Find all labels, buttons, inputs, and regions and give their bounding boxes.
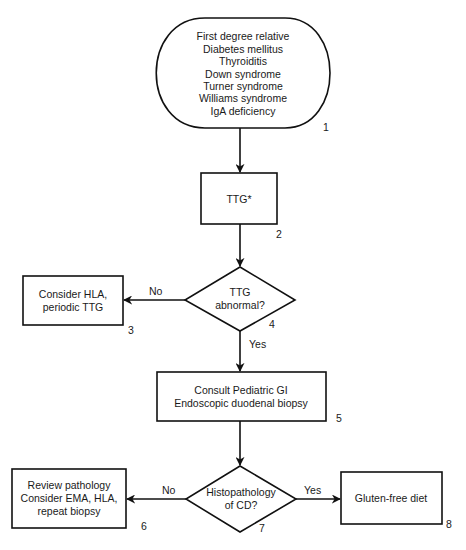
node-8-number: 8 — [446, 518, 452, 530]
node-1-line-6: Williams syndrome — [199, 92, 287, 104]
node-2-label: TTG* — [226, 193, 251, 205]
node-2-number: 2 — [276, 228, 282, 240]
node-6-line-2: Consider EMA, HLA, — [21, 492, 118, 504]
node-4-number: 4 — [269, 318, 275, 330]
node-6-line-1: Review pathology — [28, 479, 112, 491]
node-1-line-4: Down syndrome — [205, 68, 281, 80]
edge-label-no-1: No — [149, 285, 163, 297]
edge-label-yes-1: Yes — [249, 338, 266, 350]
node-consult-gi: Consult Pediatric GI Endoscopic duodenal… — [157, 372, 342, 424]
node-1-line-2: Diabetes mellitus — [203, 43, 283, 55]
node-6-number: 6 — [141, 520, 147, 532]
edge-label-no-2: No — [162, 484, 176, 496]
node-gluten-free-diet: Gluten-free diet 8 — [341, 472, 452, 530]
edge-label-yes-2: Yes — [304, 484, 321, 496]
node-1-line-5: Turner syndrome — [203, 80, 283, 92]
node-ttg: TTG* 2 — [201, 173, 282, 240]
node-3-line-1: Consider HLA, — [39, 288, 107, 300]
node-ttg-abnormal-decision: TTG abnormal? 4 — [185, 267, 295, 331]
node-consider-hla: Consider HLA, periodic TTG 3 — [23, 276, 134, 336]
node-7-number: 7 — [259, 522, 265, 534]
node-6-line-3: repeat biopsy — [37, 505, 101, 517]
node-review-pathology: Review pathology Consider EMA, HLA, repe… — [12, 469, 147, 532]
node-3-number: 3 — [128, 324, 134, 336]
node-5-line-1: Consult Pediatric GI — [194, 384, 287, 396]
node-1-line-1: First degree relative — [197, 30, 290, 42]
node-risk-groups: First degree relative Diabetes mellitus … — [156, 18, 330, 133]
node-4-line-1: TTG — [230, 286, 251, 298]
node-7-line-1: Histopathology — [206, 486, 276, 498]
node-4-line-2: abnormal? — [215, 299, 265, 311]
node-1-number: 1 — [323, 121, 329, 133]
celiac-screening-flowchart: First degree relative Diabetes mellitus … — [0, 0, 466, 550]
node-5-number: 5 — [336, 412, 342, 424]
node-7-line-2: of CD? — [225, 499, 258, 511]
node-1-line-7: IgA deficiency — [211, 105, 277, 117]
node-8-label: Gluten-free diet — [355, 492, 427, 504]
node-histopathology-decision: Histopathology of CD? 7 — [186, 466, 296, 534]
node-5-line-2: Endoscopic duodenal biopsy — [174, 397, 308, 409]
node-1-line-3: Thyroiditis — [219, 55, 267, 67]
node-3-line-2: periodic TTG — [43, 301, 104, 313]
